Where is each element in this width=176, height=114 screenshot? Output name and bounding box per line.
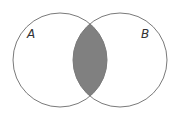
set-a-label: A <box>26 27 35 41</box>
set-b-label: B <box>141 27 149 41</box>
venn-diagram: A B <box>0 0 176 114</box>
